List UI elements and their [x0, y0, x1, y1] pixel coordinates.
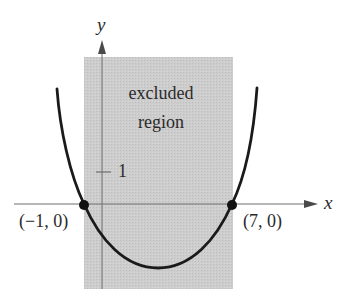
point-label-7: (7, 0)	[243, 211, 282, 232]
point-neg1-0	[79, 200, 89, 210]
y-axis-arrow-icon	[98, 40, 106, 54]
region-label-line2: region	[86, 108, 236, 137]
x-axis-label: x	[324, 192, 332, 214]
region-label: excluded region	[86, 79, 236, 137]
y-axis-label: y	[97, 14, 105, 36]
point-label-neg1: (−1, 0)	[19, 211, 68, 232]
x-axis-arrow-icon	[304, 200, 318, 208]
point-7-0	[227, 200, 237, 210]
region-label-line1: excluded	[86, 79, 236, 108]
graph-canvas	[0, 0, 351, 301]
y-tick-label: 1	[118, 161, 127, 182]
